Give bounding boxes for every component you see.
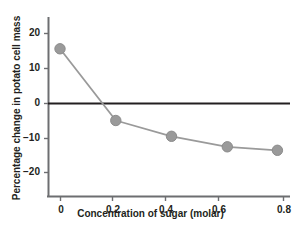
data-point-markers	[55, 44, 283, 156]
data-point-marker	[166, 131, 176, 141]
y-axis-title: Percentage change in potato cell mass	[12, 13, 22, 203]
data-point-marker	[55, 44, 65, 54]
chart-plot-area	[0, 0, 301, 232]
data-point-marker	[272, 145, 282, 155]
x-axis-title: Concentration of sugar (molar)	[0, 209, 301, 219]
data-point-marker	[111, 115, 121, 125]
chart-figure: 20 10 0 −10 −20 0 0.2 0.4 0.6 0.8 Concen…	[0, 0, 301, 232]
data-point-marker	[222, 142, 232, 152]
